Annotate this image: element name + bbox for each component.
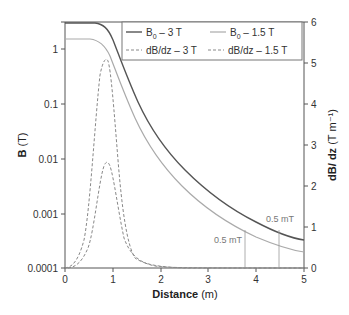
y-right-axis-label: dB/ dz (T m⁻¹): [326, 109, 338, 181]
x-tick: 1: [110, 274, 116, 285]
x-tick: 4: [253, 274, 259, 285]
y-right-tick: 6: [311, 17, 317, 28]
x-axis-label: Distance (m): [152, 288, 217, 300]
y-left-axis-label: B (T): [16, 132, 28, 157]
legend: B0 – 3 T B0 – 1.5 T dB/dz – 3 T dB/dz – …: [122, 22, 302, 60]
y-left-tick: 0.1: [44, 99, 58, 110]
annotation-0-5mt-3t: 0.5 mT: [266, 214, 295, 268]
x-tick: 5: [301, 274, 307, 285]
legend-dbdz-3t: dB/dz – 3 T: [146, 45, 197, 56]
y-right-tick: 3: [311, 140, 317, 151]
y-right-tick: 0: [311, 263, 317, 274]
y-right-tick: 2: [311, 181, 317, 192]
chart: 1 0.1 0.01 0.001 0.0001 B (T) 0 1 2 3 4 …: [0, 0, 349, 315]
x-axis: 0 1 2 3 4 5 Distance (m): [62, 268, 307, 300]
x-tick: 2: [158, 274, 164, 285]
left-y-axis: 1 0.1 0.01 0.001 0.0001 B (T): [16, 22, 65, 274]
right-y-axis: 0 1 2 3 4 5 6 dB/ dz (T m⁻¹): [304, 17, 338, 274]
x-tick: 3: [205, 274, 211, 285]
y-right-tick: 4: [311, 99, 317, 110]
y-left-tick: 0.01: [39, 154, 59, 165]
y-right-tick: 5: [311, 58, 317, 69]
annotation-0-5mt-1-5t: 0.5 mT: [214, 230, 245, 268]
y-left-tick: 0.0001: [27, 263, 58, 274]
series-dbdz-3t: [65, 59, 304, 268]
y-left-tick: 0.001: [33, 209, 58, 220]
x-tick: 0: [62, 274, 68, 285]
svg-text:0.5 mT: 0.5 mT: [266, 214, 295, 224]
legend-dbdz-1-5t: dB/dz – 1.5 T: [228, 45, 287, 56]
y-left-tick: 1: [52, 44, 58, 55]
svg-text:0.5 mT: 0.5 mT: [214, 235, 243, 245]
y-right-tick: 1: [311, 222, 317, 233]
